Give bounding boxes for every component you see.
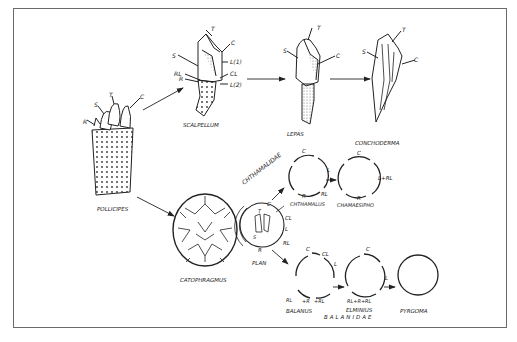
plan-label-s: S xyxy=(253,234,257,240)
pollicipes-label-c: C xyxy=(140,93,145,100)
elminius-name: ELMINIUS xyxy=(346,307,373,313)
balanus-label-rl: RL xyxy=(286,297,292,303)
pollicipes-label-r: R xyxy=(83,118,87,125)
arrow-pollicipes-to-scalpellum xyxy=(143,88,183,110)
arrow-plan-to-chthamalus xyxy=(272,188,284,200)
balanus-label-r: +R xyxy=(302,298,310,304)
balanus-name: BALANUS xyxy=(286,308,313,314)
balanus-label-l: L xyxy=(334,261,337,267)
balanidae-family-label: BALANIDAE xyxy=(324,314,374,320)
pyrgoma-name: PYRGOMA xyxy=(400,308,428,314)
elminius-label-c: C xyxy=(366,246,370,252)
scalpellum-label-l2: L(2) xyxy=(230,81,242,88)
scalpellum-drawing xyxy=(178,30,230,116)
plan-label-cl: CL xyxy=(285,215,292,221)
pollicipes-label-s: S xyxy=(94,101,98,108)
plan-label-l: L xyxy=(285,226,288,232)
lepas-drawing xyxy=(287,28,335,124)
chthamalus-name: CHTHAMALUS xyxy=(290,201,326,207)
plan-label-rl: RL xyxy=(283,240,290,246)
scalpellum-label-r: R xyxy=(179,75,183,82)
plan-label-c: C xyxy=(267,201,271,207)
scalpellum-label-cl: CL xyxy=(230,70,238,77)
plan-label-r: R xyxy=(258,247,262,253)
chamaesipho-label-l-rl: L+RL xyxy=(378,175,393,181)
balanus-label-c: C xyxy=(306,246,310,252)
chamaesipho-label-c: C xyxy=(357,150,361,156)
conchoderma-name: CONCHODERMA xyxy=(355,140,400,146)
chthamalus-label-c: C xyxy=(302,148,306,154)
pollicipes-drawing xyxy=(87,96,140,195)
arrow-plan-to-balanus xyxy=(272,250,288,264)
conchoderma-label-t: T xyxy=(402,26,407,33)
scalpellum-label-s: S xyxy=(172,52,176,59)
lepas-label-c: C xyxy=(336,52,341,59)
pollicipes-label-t: T xyxy=(109,91,114,98)
lepas-label-s: S xyxy=(283,47,287,54)
conchoderma-label-c: C xyxy=(414,56,419,63)
pollicipes-name: POLLICIPES xyxy=(97,206,129,212)
elminius-label-rl-r-rl: RL+R+RL xyxy=(347,298,372,304)
lepas-label-t: T xyxy=(317,24,322,31)
arrow-pollicipes-to-catophragmus xyxy=(137,197,174,216)
chthamalus-label-l: L xyxy=(327,167,330,173)
chamaesipho-name: CHAMAESIPHO xyxy=(337,202,374,208)
scalpellum-label-t: T xyxy=(211,25,216,32)
chamaesipho-drawing xyxy=(338,157,380,198)
conchoderma-drawing xyxy=(367,31,415,122)
barnacle-evolution-diagram: R S T C POLLICIPES T C S L(1) RL CL R L(… xyxy=(0,0,517,342)
scalpellum-label-c: C xyxy=(231,39,236,46)
chthamalidae-family-label: CHTHAMALIDAE xyxy=(240,151,282,186)
pyrgoma-drawing xyxy=(398,255,438,295)
plan-name: PLAN xyxy=(252,260,266,266)
scalpellum-label-l1: L(1) xyxy=(230,58,242,65)
balanus-label-cl: CL xyxy=(322,251,329,257)
conchoderma-label-s: S xyxy=(362,48,366,55)
balanus-label-rl2: +RL xyxy=(314,298,325,304)
elminius-drawing xyxy=(345,254,384,297)
balanus-drawing xyxy=(296,253,334,298)
elminius-label-l: L xyxy=(385,275,388,281)
catophragmus-name: CATOPHRAGMUS xyxy=(180,277,227,283)
chthamalus-label-r: R xyxy=(302,193,306,199)
catophragmus-drawing xyxy=(173,194,237,266)
plan-label-t: T xyxy=(258,208,262,214)
lepas-name: LEPAS xyxy=(287,131,304,137)
chamaesipho-label-r: R xyxy=(357,195,361,201)
scalpellum-name: SCALPELLUM xyxy=(183,122,219,128)
chthamalus-label-rl: RL xyxy=(321,191,328,197)
